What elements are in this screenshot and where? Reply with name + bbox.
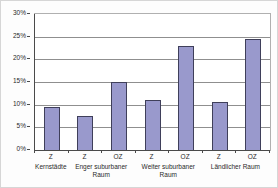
- y-axis-labels: 30%25%20%15%10%5%0%: [1, 13, 30, 149]
- y-tick-label: 0%: [1, 145, 26, 153]
- group-label: Ländlicher Raum: [211, 163, 260, 171]
- group-label-cell: Kernstädte: [34, 163, 68, 178]
- y-tick-label: 30%: [1, 9, 26, 17]
- bars: [35, 14, 270, 150]
- plot-area: [34, 13, 271, 151]
- y-tick-mark: [27, 104, 30, 105]
- x-tick-mark: [269, 150, 270, 153]
- group-label-cell: Ländlicher Raum: [202, 163, 269, 178]
- y-tick-mark: [27, 81, 30, 82]
- y-tick-label: 15%: [1, 77, 26, 85]
- category-tick-label: Z: [68, 153, 102, 161]
- group-label: Kernstädte: [35, 163, 66, 171]
- bar-slot: [236, 14, 270, 150]
- group-labels: KernstädteEnger suburbaner RaumWeiter su…: [34, 163, 269, 178]
- y-tick-label: 10%: [1, 100, 26, 108]
- bar: [77, 116, 93, 150]
- y-tick-label: 25%: [1, 32, 26, 40]
- bar-slot: [102, 14, 136, 150]
- bar-slot: [69, 14, 103, 150]
- bar-slot: [136, 14, 170, 150]
- group-label: Enger suburbaner Raum: [68, 163, 135, 178]
- category-tick-label: OZ: [101, 153, 135, 161]
- bar: [44, 107, 60, 150]
- category-tick-label: Z: [202, 153, 236, 161]
- y-tick-mark: [27, 36, 30, 37]
- group-label-cell: Enger suburbaner Raum: [68, 163, 135, 178]
- bar: [145, 100, 161, 150]
- category-tick-labels: ZZOZZOZZOZ: [34, 153, 269, 161]
- y-tick-mark: [27, 13, 30, 14]
- bar-slot: [35, 14, 69, 150]
- bar-chart: 30%25%20%15%10%5%0% ZZOZZOZZOZ Kernstädt…: [0, 0, 278, 188]
- y-tick-label: 5%: [1, 122, 26, 130]
- bar-slot: [169, 14, 203, 150]
- y-tick-label: 20%: [1, 54, 26, 62]
- bar: [111, 82, 127, 150]
- category-tick-label: Z: [135, 153, 169, 161]
- group-label: Weiter suburbaner Raum: [135, 163, 202, 178]
- category-tick-label: OZ: [235, 153, 269, 161]
- bar-slot: [203, 14, 237, 150]
- bar: [212, 102, 228, 150]
- y-tick-mark: [27, 149, 30, 150]
- y-tick-mark: [27, 126, 30, 127]
- category-tick-label: Z: [34, 153, 68, 161]
- group-label-cell: Weiter suburbaner Raum: [135, 163, 202, 178]
- y-tick-mark: [27, 58, 30, 59]
- bar: [178, 46, 194, 150]
- category-tick-label: OZ: [168, 153, 202, 161]
- y-axis-line: [34, 14, 35, 150]
- bar: [245, 39, 261, 150]
